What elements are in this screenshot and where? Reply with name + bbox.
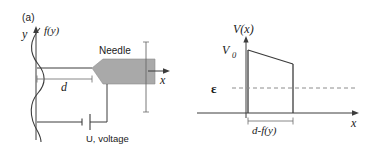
- x-axis-label-b: x: [350, 116, 357, 130]
- curve-label-fy: f(y): [44, 24, 60, 37]
- battery-symbol: [78, 114, 90, 130]
- y-axis-label: y: [21, 27, 28, 41]
- panel-b: (b) V(x) x V 0: [189, 0, 379, 147]
- voltage-circuit: [37, 84, 107, 122]
- panel-a: (a) y f(y) Needle d: [0, 0, 190, 147]
- gap-label-d: d: [61, 80, 68, 94]
- energy-level-label: ε: [211, 81, 217, 96]
- voltage-label: U, voltage: [86, 133, 129, 144]
- barrier-height-V: V: [222, 43, 231, 57]
- panel-a-label: (a): [22, 12, 35, 23]
- figure-container: (a) y f(y) Needle d: [0, 0, 379, 147]
- barrier-width-label: d-f(y): [252, 124, 277, 137]
- barrier-height-subscript: 0: [232, 50, 237, 60]
- v-axis-label: V(x): [233, 22, 254, 36]
- x-axis-b: [197, 110, 359, 116]
- needle-label: Needle: [99, 45, 131, 56]
- potential-barrier-curve: [248, 50, 293, 113]
- panel-b-drawing: V(x) x V 0 ε: [189, 0, 379, 147]
- x-axis-label-a: x: [159, 73, 166, 87]
- cathode-surface-curve: [31, 28, 44, 142]
- barrier-height-label: V 0: [222, 43, 237, 60]
